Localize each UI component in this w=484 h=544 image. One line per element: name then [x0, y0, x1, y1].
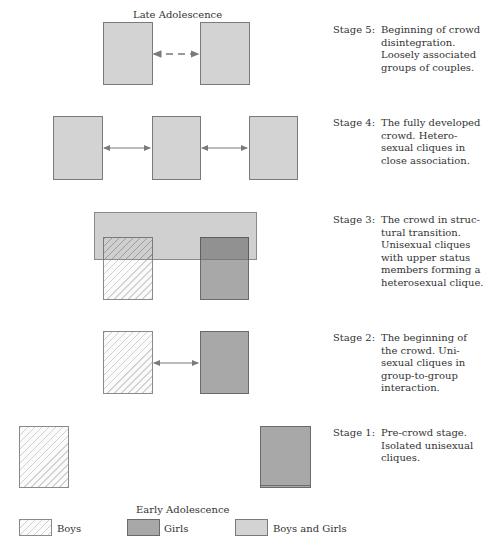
stage2-label: Stage 2:	[333, 332, 381, 345]
stage5-line: Beginning of crowd	[381, 24, 481, 37]
stage1-description: Pre-crowd stage. Isolated unisexual cliq…	[381, 427, 481, 465]
stage3-line: The crowd in struc-	[381, 214, 481, 227]
stage3-description: The crowd in struc- tural transition. Un…	[381, 214, 481, 290]
legend-label-boys-and-girls: Boys and Girls	[273, 522, 347, 535]
stage1-line: Isolated unisexual	[381, 440, 481, 453]
stage5-description: Beginning of crowd disintegration. Loose…	[381, 24, 481, 74]
legend-swatch-girls	[127, 519, 160, 536]
stage5-line: groups of couples.	[381, 62, 481, 75]
stage4-line: sexual cliques in	[381, 142, 481, 155]
early-adolescence-label: Early Adolescence	[136, 503, 229, 516]
stage4-line: The fully developed	[381, 117, 481, 130]
stage4-line: close association.	[381, 155, 481, 168]
stage3-label: Stage 3:	[333, 214, 381, 227]
stage1-label: Stage 1:	[333, 427, 381, 440]
stage1-line: Pre-crowd stage.	[381, 427, 481, 440]
stage2-line: The beginning of	[381, 332, 481, 345]
legend-label-boys: Boys	[57, 522, 81, 535]
stage3-line: Unisexual cliques	[381, 239, 481, 252]
legend-swatch-boys	[19, 519, 52, 536]
stage2-description: The beginning of the crowd. Uni- sexual …	[381, 332, 481, 395]
stage2-line: group-to-group	[381, 370, 481, 383]
stage5-line: disintegration.	[381, 37, 481, 50]
stage5-label: Stage 5:	[333, 24, 381, 37]
stage2-line: the crowd. Uni-	[381, 345, 481, 358]
stage2-line: interaction.	[381, 382, 481, 395]
legend-swatch-boys-and-girls	[235, 519, 268, 536]
stage3-line: tural transition.	[381, 227, 481, 240]
stage4-label: Stage 4:	[333, 117, 381, 130]
stage4-description: The fully developed crowd. Hetero- sexua…	[381, 117, 481, 167]
stage4-line: crowd. Hetero-	[381, 130, 481, 143]
legend-label-girls: Girls	[164, 522, 188, 535]
stage1-line: cliques.	[381, 452, 481, 465]
stage3-line: with upper status	[381, 252, 481, 265]
stage2-line: sexual cliques in	[381, 357, 481, 370]
stage3-line: members forming a	[381, 264, 481, 277]
stage5-line: Loosely associated	[381, 49, 481, 62]
stage3-line: heterosexual clique.	[381, 277, 481, 290]
